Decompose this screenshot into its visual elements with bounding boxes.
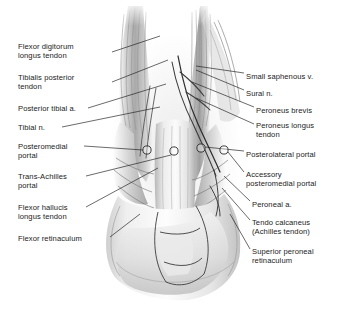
- label-tibialis-posterior-tendon: Tibialis posterior tendon: [18, 73, 74, 92]
- label-peroneus-longus-tendon: Peroneus longus tendon: [256, 121, 314, 140]
- top-fade-mask: [100, 0, 250, 26]
- label-flexor-retinaculum: Flexor retinaculum: [18, 234, 82, 243]
- label-tendo-calcaneus: Tendo calcaneus (Achilles tendon): [252, 218, 310, 237]
- label-tibial-nerve: Tibial n.: [18, 123, 45, 132]
- label-flexor-digitorum-longus-tendon: Flexor digitorum longus tendon: [18, 42, 74, 61]
- posterolateral-portal-marker: [197, 144, 205, 152]
- label-posterior-tibial-artery: Posterior tibial a.: [18, 104, 76, 113]
- label-accessory-posteromedial-portal: Accessory posteromedial portal: [246, 170, 316, 189]
- trans-achilles-portal-marker: [170, 147, 178, 155]
- label-peroneal-artery: Peroneal a.: [252, 200, 292, 209]
- label-flexor-hallucis-longus-tendon: Flexor hallucis longus tendon: [18, 203, 68, 222]
- label-superior-peroneal-retinaculum: Superior peroneal retinaculum: [252, 247, 314, 266]
- label-trans-achilles-portal: Trans-Achilles portal: [18, 172, 67, 191]
- label-peroneus-brevis: Peroneus brevis: [256, 106, 312, 115]
- label-sural-nerve: Sural n.: [246, 89, 273, 98]
- label-small-saphenous-vein: Small saphenous v.: [246, 72, 313, 81]
- label-posteromedial-portal: Posteromedial portal: [18, 142, 68, 161]
- label-posterolateral-portal: Posterolateral portal: [246, 150, 316, 159]
- posteromedial-portal-marker: [143, 146, 151, 154]
- anatomy-figure: Flexor digitorum longus tendonTibialis p…: [0, 0, 347, 311]
- accessory-posteromedial-portal-marker: [220, 146, 228, 154]
